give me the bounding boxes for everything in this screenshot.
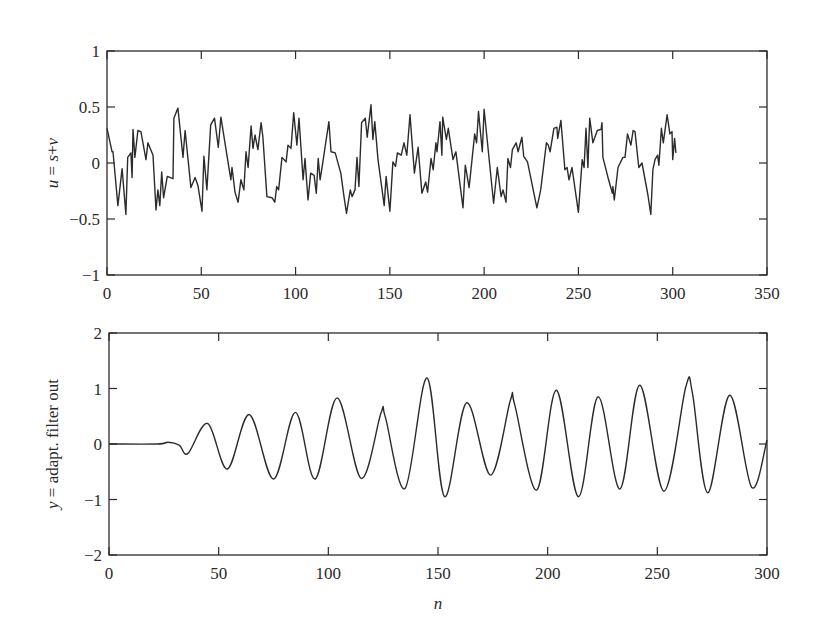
y-tick-label: 2 [94,324,103,343]
x-tick-label: 100 [316,564,342,583]
y-tick-label: 0 [94,435,103,454]
y-tick-label: 0.5 [79,98,100,117]
bottom-x-axis-label: n [434,594,443,613]
bottom-x-axis-ticks: 050100150200250300 [105,333,780,583]
top-x-axis-ticks: 050100150200250300350 [103,51,780,303]
y-tick-label: −2 [84,546,102,565]
top-plot-panel: 10.50−0.5−1 050100150200250300350 u = s+… [43,42,780,303]
x-tick-label: 100 [283,284,309,303]
x-tick-label: 150 [425,564,451,583]
y-tick-label: 1 [94,380,103,399]
x-tick-label: 250 [566,284,592,303]
x-tick-label: 50 [193,284,210,303]
y-tick-label: −1 [84,491,102,510]
y-tick-label: −0.5 [69,210,100,229]
bottom-filter-output-line [109,377,767,497]
x-tick-label: 300 [754,564,780,583]
figure: 10.50−0.5−1 050100150200250300350 u = s+… [0,0,822,640]
x-tick-label: 200 [471,284,497,303]
bottom-y-axis-ticks: 210−1−2 [84,324,767,565]
x-tick-label: 150 [377,284,403,303]
x-tick-label: 0 [103,284,112,303]
x-tick-label: 200 [535,564,561,583]
y-tick-label: 1 [92,42,101,61]
y-tick-label: −1 [82,266,100,285]
x-tick-label: 350 [754,284,780,303]
top-plot-frame [107,51,767,275]
top-signal-line [107,105,676,215]
x-tick-label: 300 [660,284,686,303]
bottom-y-axis-label: y = adapt. filter out [43,379,62,511]
y-tick-label: 0 [92,154,101,173]
bottom-plot-frame [109,333,767,555]
x-tick-label: 50 [210,564,227,583]
x-tick-label: 250 [645,564,671,583]
bottom-plot-panel: 210−1−2 050100150200250300 y = adapt. fi… [43,324,780,613]
x-tick-label: 0 [105,564,114,583]
top-y-axis-label: u = s+v [43,137,62,188]
